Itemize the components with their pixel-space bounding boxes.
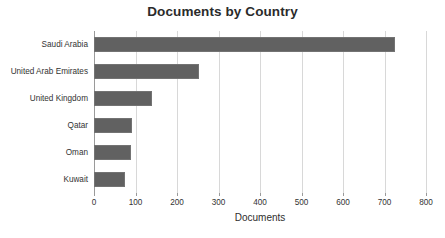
chart-title: Documents by Country — [0, 4, 445, 19]
x-axis-tick — [343, 193, 344, 196]
x-axis-title: Documents — [94, 212, 426, 223]
bar-row — [94, 58, 426, 85]
x-axis-tick-label: 0 — [92, 197, 97, 208]
bar[interactable] — [94, 172, 125, 187]
bar-row — [94, 85, 426, 112]
bar-row — [94, 31, 426, 58]
y-axis-tick-label: Kuwait — [63, 175, 88, 185]
y-axis-tick-label: United Arab Emirates — [11, 67, 88, 77]
bar[interactable] — [94, 91, 152, 106]
y-axis-tick-label: United Kingdom — [30, 94, 88, 104]
bar-row — [94, 139, 426, 166]
x-axis-tick-label: 200 — [170, 197, 184, 208]
x-axis-tick-labels: 0100200300400500600700800 — [0, 197, 445, 209]
bar[interactable] — [94, 37, 395, 52]
y-axis-tick-label: Qatar — [68, 121, 88, 131]
x-axis-tick-label: 800 — [419, 197, 433, 208]
x-axis-tick-label: 600 — [336, 197, 350, 208]
bar-row — [94, 112, 426, 139]
x-axis-tick-label: 100 — [129, 197, 143, 208]
x-axis-tick — [385, 193, 386, 196]
y-axis-labels: Saudi ArabiaUnited Arab EmiratesUnited K… — [0, 31, 88, 193]
bar-row — [94, 166, 426, 193]
x-axis-tick-label: 500 — [295, 197, 309, 208]
plot-area — [94, 31, 426, 193]
bar[interactable] — [94, 64, 199, 79]
bar[interactable] — [94, 145, 131, 160]
x-axis-tick — [136, 193, 137, 196]
bar[interactable] — [94, 118, 132, 133]
x-axis-tick — [302, 193, 303, 196]
gridline-800 — [426, 31, 427, 193]
x-axis-tick — [177, 193, 178, 196]
bar-chart: Documents by Country Saudi ArabiaUnited … — [0, 0, 445, 238]
x-axis-tick — [426, 193, 427, 196]
x-axis-tick — [94, 193, 95, 196]
y-axis-tick-label: Saudi Arabia — [42, 40, 88, 50]
x-axis-tick — [260, 193, 261, 196]
y-axis-tick-label: Oman — [66, 148, 88, 158]
x-axis-tick-label: 400 — [253, 197, 267, 208]
x-axis-tick-label: 300 — [212, 197, 226, 208]
x-axis-tick-label: 700 — [378, 197, 392, 208]
x-axis-tick — [219, 193, 220, 196]
